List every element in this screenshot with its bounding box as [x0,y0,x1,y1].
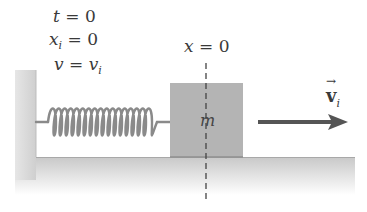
initial-velocity-label: v = vi [54,54,102,77]
origin-label: x = 0 [184,36,229,56]
mass-label: m [200,111,215,130]
initial-position-label: xi = 0 [49,29,98,52]
time-label: t = 0 [53,6,96,26]
spring [36,109,170,136]
velocity-arrow [258,114,348,130]
velocity-label: →vi [326,85,340,110]
wall [15,70,36,180]
floor [15,157,355,195]
vector-arrow-icon: → [326,74,336,88]
